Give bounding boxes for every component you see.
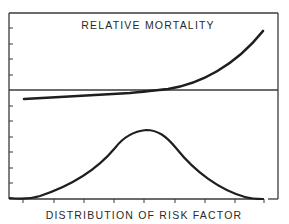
relative-mortality-curve <box>24 31 263 99</box>
plot-frame <box>9 13 278 199</box>
risk-factor-distribution-curve <box>10 130 263 199</box>
chart-container: RELATIVE MORTALITY DISTRIBUTION OF RISK … <box>0 0 289 224</box>
chart-title: RELATIVE MORTALITY <box>81 19 215 31</box>
x-axis-label: DISTRIBUTION OF RISK FACTOR <box>46 209 243 221</box>
relative-mortality-chart: RELATIVE MORTALITY DISTRIBUTION OF RISK … <box>0 0 289 224</box>
